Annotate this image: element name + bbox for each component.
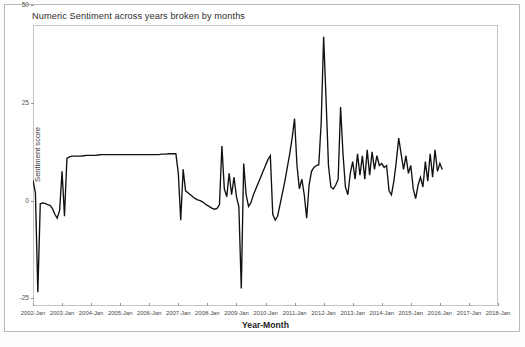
x-tick-mark	[498, 303, 499, 306]
x-tick-mark	[382, 303, 383, 306]
x-tick-label: 2008-Jan	[195, 310, 220, 316]
y-tick-mark	[31, 5, 34, 6]
y-tick-label: -25	[11, 294, 29, 301]
y-tick-mark	[31, 298, 34, 299]
x-tick-mark	[295, 303, 296, 306]
x-tick-label: 2010-Jan	[253, 310, 278, 316]
x-tick-mark	[266, 303, 267, 306]
x-tick-label: 2003-Jan	[50, 310, 75, 316]
y-tick-label: 50	[11, 1, 29, 8]
x-tick-mark	[411, 303, 412, 306]
x-tick-mark	[91, 303, 92, 306]
y-axis-label: Sentiment score	[33, 95, 42, 215]
x-tick-mark	[207, 303, 208, 306]
x-tick-mark	[440, 303, 441, 306]
y-tick-label: 25	[11, 99, 29, 106]
plot-canvas	[33, 25, 498, 306]
x-tick-label: 2018-Jan	[486, 310, 511, 316]
page-root: Numeric Sentiment across years broken by…	[0, 0, 525, 347]
x-tick-mark	[236, 303, 237, 306]
x-tick-mark	[324, 303, 325, 306]
x-tick-label: 2012-Jan	[311, 310, 336, 316]
x-axis-label: Year-Month	[33, 320, 498, 330]
x-tick-mark	[469, 303, 470, 306]
x-tick-label: 2015-Jan	[399, 310, 424, 316]
x-tick-label: 2013-Jan	[340, 310, 365, 316]
x-tick-mark	[62, 303, 63, 306]
x-tick-mark	[120, 303, 121, 306]
x-tick-label: 2005-Jan	[108, 310, 133, 316]
x-tick-label: 2009-Jan	[224, 310, 249, 316]
y-tick-label: 0	[11, 197, 29, 204]
x-tick-label: 2002-Jan	[21, 310, 46, 316]
x-tick-mark	[178, 303, 179, 306]
x-tick-label: 2011-Jan	[282, 310, 306, 316]
series-line-sentiment-score	[33, 37, 442, 293]
x-tick-label: 2017-Jan	[457, 310, 482, 316]
x-tick-label: 2016-Jan	[428, 310, 453, 316]
x-tick-label: 2007-Jan	[166, 310, 191, 316]
x-tick-mark	[33, 303, 34, 306]
x-tick-label: 2006-Jan	[137, 310, 162, 316]
chart-title: Numeric Sentiment across years broken by…	[32, 11, 245, 21]
x-tick-mark	[353, 303, 354, 306]
x-tick-label: 2004-Jan	[79, 310, 104, 316]
x-tick-label: 2014-Jan	[369, 310, 394, 316]
x-tick-mark	[149, 303, 150, 306]
